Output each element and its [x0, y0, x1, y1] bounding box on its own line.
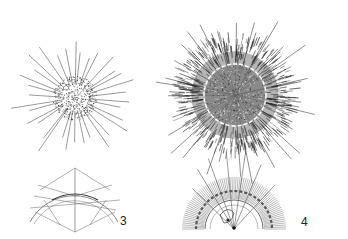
- figure-b-large-radiolarian: [156, 21, 315, 183]
- figure-4-half-section: [182, 151, 286, 229]
- figure-3-spine-detail: [30, 168, 120, 232]
- figure-3-label: 3: [120, 215, 127, 227]
- figure-plate: 3 4: [0, 0, 348, 239]
- plate-drawing: [0, 0, 348, 239]
- figure-a-small-radiolarian: [11, 42, 133, 151]
- figure-4-label: 4: [301, 216, 308, 228]
